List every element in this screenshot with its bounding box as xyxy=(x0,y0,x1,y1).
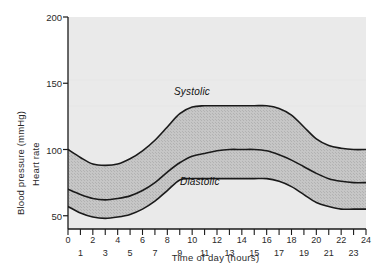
x-tick-label: 16 xyxy=(262,235,272,245)
x-tick-label: 12 xyxy=(212,235,222,245)
diastolic-annotation: Diastolic xyxy=(180,176,220,187)
x-tick-label: 20 xyxy=(311,235,321,245)
x-tick-label: 14 xyxy=(237,235,247,245)
x-tick-label: 18 xyxy=(286,235,296,245)
x-axis-title-text: Time of day (hours) xyxy=(120,252,260,263)
x-tick-label: 6 xyxy=(140,235,145,245)
x-tick-label: 2 xyxy=(90,235,95,245)
x-tick-label: 24 xyxy=(361,235,371,245)
circadian-blood-pressure-chart xyxy=(0,0,379,272)
y-tick-label: 100 xyxy=(38,144,62,155)
y-tick-label: 50 xyxy=(38,210,62,221)
x-axis-title: Time of day (hours) xyxy=(0,252,379,263)
chart-figure: Blood pressure (mmHg) Heart rate 5010015… xyxy=(0,0,379,272)
y-axis-title-blood-pressure: Blood pressure (mmHg) xyxy=(15,111,26,215)
x-tick-label: 0 xyxy=(65,235,70,245)
x-tick-label: 8 xyxy=(165,235,170,245)
x-tick-label: 10 xyxy=(187,235,197,245)
y-axis-ticks xyxy=(63,17,68,216)
systolic-annotation: Systolic xyxy=(174,86,210,97)
y-tick-label: 150 xyxy=(38,78,62,89)
x-tick-label: 22 xyxy=(336,235,346,245)
y-tick-label: 200 xyxy=(38,12,62,23)
x-tick-label: 4 xyxy=(115,235,120,245)
